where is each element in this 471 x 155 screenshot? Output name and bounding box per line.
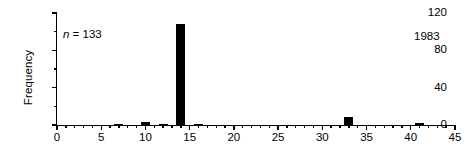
x-tick-major — [56, 125, 57, 130]
x-tick-minor — [384, 125, 385, 128]
x-tick-minor — [304, 125, 305, 128]
x-tick-minor — [375, 125, 376, 128]
x-tick-minor — [313, 125, 314, 128]
x-tick-minor — [224, 125, 225, 128]
x-axis-spine — [56, 125, 455, 126]
x-tick-minor — [136, 125, 137, 128]
x-tick-minor — [118, 125, 119, 128]
y-tick-label: 40 — [434, 82, 447, 94]
x-tick-minor — [198, 125, 199, 128]
y-tick-major — [52, 12, 57, 13]
sample-size-annotation: n = 133 — [63, 29, 102, 41]
x-tick-minor — [330, 125, 331, 128]
x-tick-label: 20 — [227, 132, 240, 144]
bar — [194, 124, 203, 125]
y-tick-label: 120 — [428, 7, 447, 19]
x-tick-major — [322, 125, 323, 130]
bar — [176, 24, 185, 125]
histogram-figure: Frequency 04080120 051015202530354045 n … — [0, 0, 471, 155]
x-tick-major — [189, 125, 190, 130]
y-tick-major — [52, 87, 57, 88]
x-tick-minor — [286, 125, 287, 128]
x-tick-minor — [437, 125, 438, 128]
x-tick-minor — [419, 125, 420, 128]
x-tick-minor — [428, 125, 429, 128]
x-tick-minor — [171, 125, 172, 128]
x-tick-major — [366, 125, 367, 130]
x-tick-minor — [242, 125, 243, 128]
x-tick-minor — [339, 125, 340, 128]
x-tick-major — [410, 125, 411, 130]
x-tick-major — [277, 125, 278, 130]
bar — [141, 122, 150, 125]
x-tick-minor — [269, 125, 270, 128]
bar — [344, 117, 353, 125]
x-tick-minor — [260, 125, 261, 128]
x-tick-major — [454, 125, 455, 130]
year-annotation: 1983 — [414, 31, 440, 43]
y-tick-label: 80 — [434, 45, 447, 57]
x-tick-minor — [65, 125, 66, 128]
x-tick-minor — [401, 125, 402, 128]
x-tick-label: 40 — [404, 132, 417, 144]
plot-area: 04080120 051015202530354045 — [57, 13, 455, 125]
x-tick-label: 10 — [139, 132, 152, 144]
x-tick-minor — [162, 125, 163, 128]
x-tick-label: 15 — [183, 132, 196, 144]
bar — [415, 123, 424, 125]
x-tick-minor — [295, 125, 296, 128]
sample-size-value: = 133 — [69, 28, 101, 40]
x-tick-label: 25 — [272, 132, 285, 144]
bar — [114, 124, 123, 125]
x-tick-label: 0 — [54, 132, 60, 144]
x-tick-minor — [154, 125, 155, 128]
x-tick-major — [233, 125, 234, 130]
x-tick-minor — [392, 125, 393, 128]
y-tick-major — [52, 50, 57, 51]
x-tick-minor — [127, 125, 128, 128]
x-tick-minor — [180, 125, 181, 128]
x-tick-label: 45 — [449, 132, 462, 144]
x-tick-label: 5 — [98, 132, 104, 144]
x-tick-label: 35 — [360, 132, 373, 144]
x-tick-major — [145, 125, 146, 130]
x-tick-minor — [207, 125, 208, 128]
y-tick-minor — [54, 68, 57, 69]
x-tick-label: 30 — [316, 132, 329, 144]
x-tick-minor — [216, 125, 217, 128]
x-tick-minor — [109, 125, 110, 128]
x-tick-minor — [74, 125, 75, 128]
x-tick-minor — [357, 125, 358, 128]
x-tick-minor — [92, 125, 93, 128]
x-tick-minor — [251, 125, 252, 128]
x-tick-minor — [83, 125, 84, 128]
x-tick-minor — [445, 125, 446, 128]
x-tick-minor — [348, 125, 349, 128]
y-axis-label: Frequency — [29, 0, 57, 155]
y-tick-minor — [54, 106, 57, 107]
y-axis-label-text: Frequency — [23, 50, 35, 105]
bar — [159, 124, 168, 125]
x-tick-major — [101, 125, 102, 130]
y-tick-minor — [54, 31, 57, 32]
